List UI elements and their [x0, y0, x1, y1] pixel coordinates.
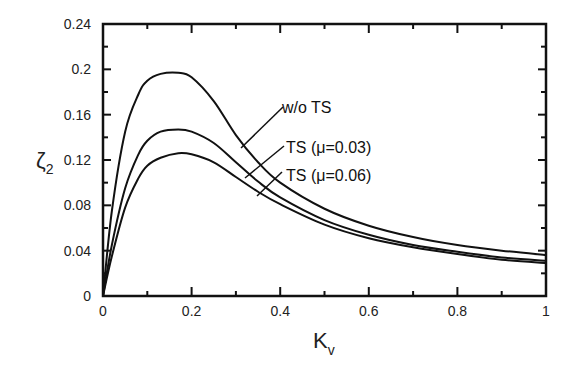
- leader-line: [245, 146, 284, 178]
- y-tick-label: 0.24: [64, 16, 91, 32]
- y-tick-label: 0.04: [64, 243, 91, 259]
- x-tick-label: 1: [542, 303, 550, 319]
- x-tick-label: 0: [99, 303, 107, 319]
- x-tick-label: 0.2: [182, 303, 202, 319]
- leader-line: [241, 107, 283, 148]
- x-label-sub: v: [328, 342, 335, 358]
- y-label-main: ζ: [36, 148, 46, 173]
- x-axis-label: Kv: [313, 328, 335, 358]
- y-tick-label: 0: [83, 288, 91, 304]
- y-axis-label: ζ2: [36, 148, 54, 177]
- x-tick-label: 0.6: [359, 303, 379, 319]
- y-tick-label: 0.08: [64, 197, 91, 213]
- y-tick-label: 0.16: [64, 107, 91, 123]
- x-tick-label: 0.4: [270, 303, 290, 319]
- annotation-label: w/o TS: [281, 99, 332, 116]
- x-tick-label: 0.8: [448, 303, 468, 319]
- annotation-label: TS (μ=0.03): [286, 139, 371, 156]
- y-label-sub: 2: [46, 161, 54, 177]
- curve-annotations: w/o TSTS (μ=0.03)TS (μ=0.06): [241, 99, 371, 196]
- annotation-label: TS (μ=0.06): [286, 167, 371, 184]
- x-label-main: K: [313, 328, 328, 353]
- y-tick-label: 0.12: [64, 152, 91, 168]
- chart: 00.20.40.60.8100.040.080.120.160.20.24 w…: [0, 0, 576, 373]
- y-tick-label: 0.2: [72, 61, 92, 77]
